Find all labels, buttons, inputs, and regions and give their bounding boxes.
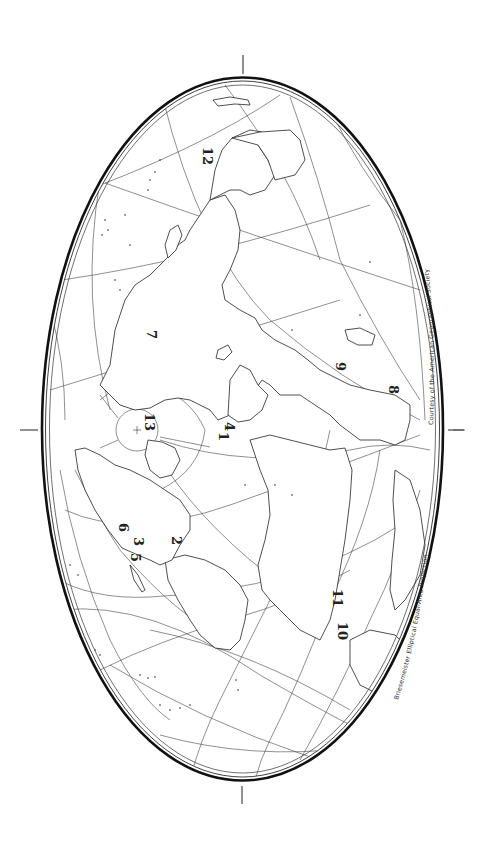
label-1: 1: [216, 432, 231, 441]
label-7: 7: [144, 330, 159, 339]
world-map: 12 7 9 8 13 1 4 6 3 2 5 11 10 Courtesy o…: [0, 0, 498, 844]
label-2: 2: [169, 536, 184, 545]
label-5: 5: [128, 553, 143, 562]
label-10: 10: [335, 622, 350, 640]
north-pole-marker: [133, 426, 141, 434]
label-9: 9: [333, 362, 348, 371]
land-south-america: [165, 555, 248, 650]
land-baja: [130, 565, 145, 592]
label-3: 3: [131, 537, 146, 546]
land-madagascar: [345, 328, 375, 345]
label-6: 6: [116, 523, 131, 532]
label-12: 12: [200, 147, 215, 165]
label-8: 8: [386, 385, 401, 394]
label-11: 11: [330, 589, 345, 607]
label-13: 13: [142, 413, 157, 431]
land-greenland: [145, 440, 180, 478]
land-north-island: [213, 97, 250, 106]
label-4: 4: [222, 422, 237, 431]
landmasses: [75, 97, 425, 695]
